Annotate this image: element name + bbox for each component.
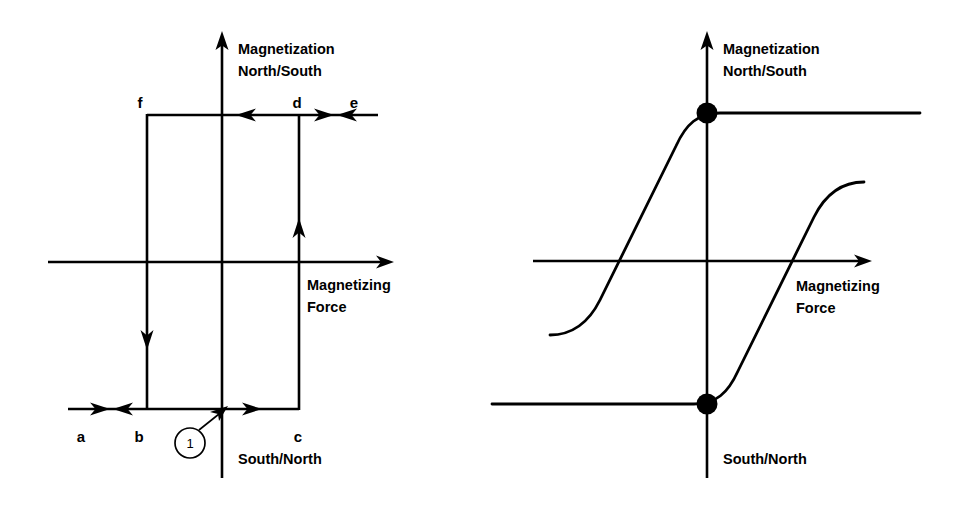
lower-remanence-point: [697, 394, 718, 415]
y-axis-label-line2: North/South: [723, 63, 807, 79]
callout-number: 1: [186, 436, 193, 451]
point-label-c: c: [294, 428, 302, 445]
x-axis-label-line1: Magnetizing: [796, 278, 880, 294]
horizontal-axis: [533, 255, 872, 268]
upper-branch-curve: [550, 113, 920, 335]
y-axis-label-line2: North/South: [238, 63, 322, 79]
callout-1: [175, 406, 228, 458]
x-axis-label-line2: Force: [796, 300, 836, 316]
point-label-a: a: [77, 428, 86, 445]
y-axis-label-line1: Magnetization: [238, 41, 335, 57]
diagram-canvas: f d e a b c 1 Magnetization North/South …: [0, 0, 959, 512]
point-label-b: b: [134, 428, 143, 445]
left-hysteresis-figure: f d e a b c 1 Magnetization North/South …: [0, 0, 480, 512]
point-label-e: e: [350, 94, 358, 111]
right-hysteresis-figure: Magnetization North/South Magnetizing Fo…: [480, 0, 959, 512]
lower-branch: [68, 403, 299, 416]
y-axis-negative-label: South/North: [723, 451, 807, 467]
upper-branch: [147, 109, 378, 122]
upper-remanence-point: [697, 103, 718, 124]
left-figure-svg: f d e a b c 1 Magnetization North/South …: [0, 0, 480, 512]
x-axis-label-line2: Force: [307, 299, 347, 315]
point-label-d: d: [292, 94, 301, 111]
x-axis-label-line1: Magnetizing: [307, 277, 391, 293]
y-axis-label-line1: Magnetization: [723, 41, 820, 57]
point-label-f: f: [138, 94, 144, 111]
right-figure-svg: Magnetization North/South Magnetizing Fo…: [480, 0, 959, 512]
y-axis-negative-label: South/North: [238, 451, 322, 467]
